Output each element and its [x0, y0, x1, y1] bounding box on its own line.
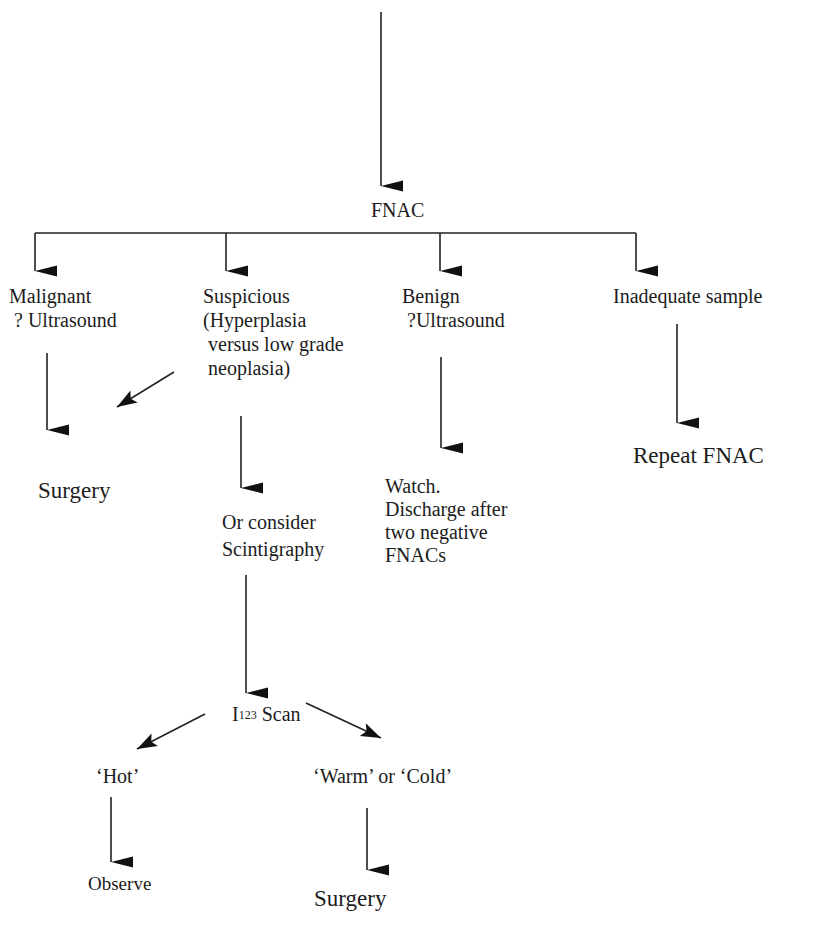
node-observe-label: Observe: [88, 873, 151, 894]
node-fnac-label: FNAC: [371, 199, 424, 221]
node-suspicious: Suspicious (Hyperplasia versus low grade…: [203, 284, 344, 380]
node-watch-line-1: Watch.: [385, 475, 507, 498]
node-benign-line-2: ?Ultrasound: [402, 308, 505, 332]
node-or-consider-line-1: Or consider: [222, 509, 324, 536]
node-benign: Benign ?Ultrasound: [402, 284, 505, 332]
node-inadequate-label: Inadequate sample: [613, 285, 762, 307]
node-watch-line-3: two negative: [385, 521, 507, 544]
flowchart-diagram: FNAC Malignant ? Ultrasound Suspicious (…: [0, 0, 814, 925]
node-or-consider-scintigraphy: Or consider Scintigraphy: [222, 509, 324, 563]
node-warm-or-cold: ‘Warm’ or ‘Cold’: [313, 764, 452, 788]
node-suspicious-line-4: neoplasia): [203, 356, 344, 380]
node-i123-suffix: Scan: [257, 703, 301, 725]
node-suspicious-line-3: versus low grade: [203, 332, 344, 356]
node-benign-line-1: Benign: [402, 284, 505, 308]
node-warm-cold-label: ‘Warm’ or ‘Cold’: [313, 765, 452, 787]
node-watch-line-4: FNACs: [385, 544, 507, 567]
arrow-suspicious-to-surgery: [117, 372, 174, 407]
node-malignant-line-1: Malignant: [9, 284, 117, 308]
node-i123-superscript: 123: [239, 708, 257, 722]
node-fnac: FNAC: [371, 198, 424, 222]
node-hot-label: ‘Hot’: [96, 765, 139, 787]
node-surgery-left-label: Surgery: [38, 478, 110, 503]
node-i123-scan: I123 Scan: [232, 702, 301, 726]
node-repeat-fnac-label: Repeat FNAC: [633, 443, 764, 468]
node-surgery-bottom-label: Surgery: [314, 886, 386, 911]
arrow-i123-to-warm-cold: [306, 703, 381, 738]
node-watch: Watch. Discharge after two negative FNAC…: [385, 475, 507, 567]
node-observe: Observe: [88, 872, 151, 895]
node-surgery-left: Surgery: [38, 477, 110, 505]
node-watch-line-2: Discharge after: [385, 498, 507, 521]
node-surgery-bottom: Surgery: [314, 885, 386, 913]
node-malignant-line-2: ? Ultrasound: [9, 308, 117, 332]
node-suspicious-line-1: Suspicious: [203, 284, 344, 308]
node-inadequate-sample: Inadequate sample: [613, 284, 762, 308]
node-malignant: Malignant ? Ultrasound: [9, 284, 117, 332]
node-hot: ‘Hot’: [96, 764, 139, 788]
node-suspicious-line-2: (Hyperplasia: [203, 308, 344, 332]
node-repeat-fnac: Repeat FNAC: [633, 442, 764, 470]
node-or-consider-line-2: Scintigraphy: [222, 536, 324, 563]
node-i123-base: I: [232, 703, 239, 725]
arrow-i123-to-hot: [137, 714, 205, 749]
